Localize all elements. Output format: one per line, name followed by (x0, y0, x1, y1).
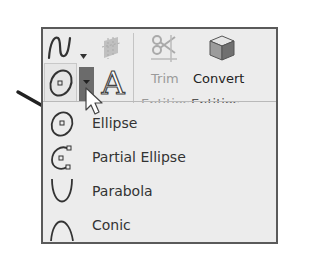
convert-label: Convert (193, 71, 244, 86)
trim-label: Trim (151, 71, 179, 86)
ellipse-dropdown-menu: Ellipse Partial Ellipse Parabola Conic (43, 103, 276, 242)
ellipse-icon (47, 67, 75, 99)
menu-item-label: Conic (92, 217, 131, 233)
conic-icon (47, 211, 77, 241)
trim-entities-button[interactable]: Trim Entities (139, 31, 189, 101)
toolbar-separator (133, 33, 134, 103)
ellipse-tool-button[interactable] (44, 63, 77, 102)
surface-icon (98, 35, 124, 61)
menu-item-ellipse[interactable]: Ellipse (45, 107, 274, 140)
toolbar-menu-divider (43, 101, 276, 102)
parabola-icon (47, 177, 77, 207)
trim-scissors-icon (149, 33, 179, 63)
menu-item-partial-ellipse[interactable]: Partial Ellipse (45, 141, 274, 174)
chevron-down-icon (79, 53, 88, 60)
surface-button[interactable] (98, 35, 124, 61)
ellipse-icon (47, 109, 77, 139)
sketch-toolbar-panel: A Trim Entities Convert Entities (41, 27, 278, 244)
chevron-down-icon (82, 79, 91, 85)
mouse-cursor-icon (84, 86, 106, 116)
spline-dropdown-button[interactable] (79, 45, 88, 52)
menu-item-label: Partial Ellipse (92, 149, 186, 165)
menu-item-label: Parabola (92, 183, 153, 199)
spline-icon (46, 33, 73, 61)
menu-item-parabola[interactable]: Parabola (45, 175, 274, 208)
spline-button[interactable] (46, 33, 73, 61)
menu-item-conic[interactable]: Conic (45, 209, 274, 242)
convert-cube-icon (207, 33, 237, 63)
convert-entities-button[interactable]: Convert Entities (189, 31, 261, 101)
partial-ellipse-icon (47, 143, 77, 173)
menu-item-label: Ellipse (92, 115, 137, 131)
